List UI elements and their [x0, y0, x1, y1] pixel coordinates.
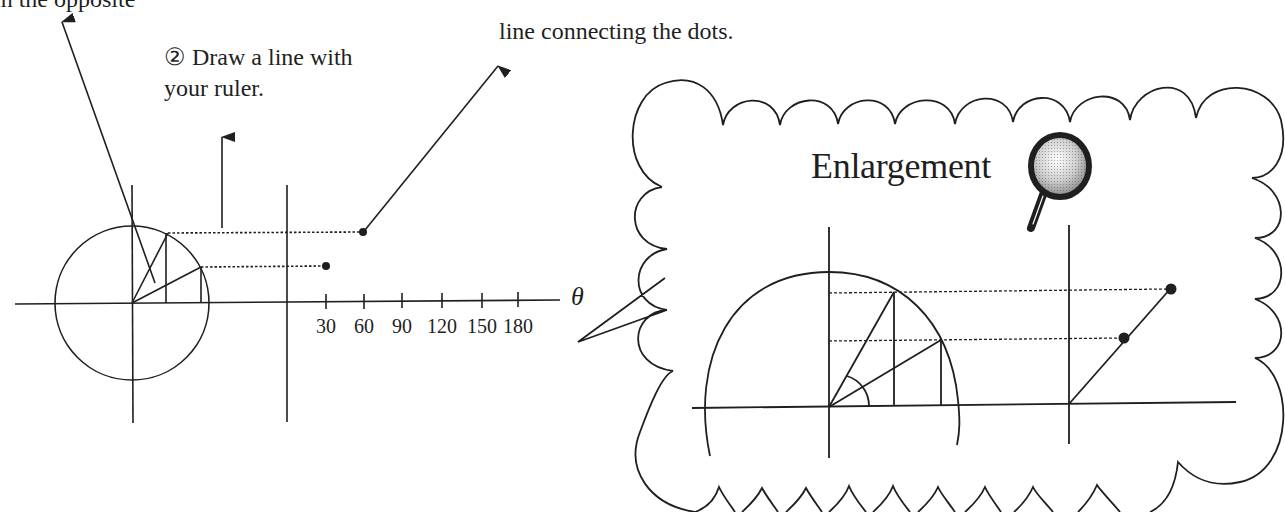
angle-arc: [847, 376, 869, 406]
instruction-step2-line1: ② Draw a line with: [164, 42, 424, 73]
arrow-step1: [62, 22, 155, 283]
plotted-point-60: [359, 228, 367, 236]
enlarged-radius-60: [829, 292, 894, 407]
instruction-step3-text: line connecting the dots.: [499, 18, 734, 45]
instruction-step2: ② Draw a line with your ruler.: [164, 42, 424, 104]
tick-label-120: 120: [427, 315, 457, 338]
projection-60: [168, 232, 362, 233]
instruction-step2-line2: your ruler.: [164, 73, 424, 104]
tick-label-90: 90: [392, 315, 412, 338]
plotted-point-30: [322, 262, 330, 270]
tick-label-60: 60: [354, 315, 374, 338]
theta-axis-label: θ: [571, 282, 584, 312]
sine-graph-segment: [1069, 288, 1171, 404]
projection-30: [201, 266, 325, 267]
tick-label-150: 150: [467, 315, 497, 338]
enlarged-point-30: [1119, 333, 1130, 344]
enlarged-projection-30: [829, 338, 1122, 341]
enlarged-circle-arc: [705, 272, 959, 456]
enlarged-projection-60: [829, 289, 1168, 293]
enlargement-title: Enlargement: [811, 145, 991, 187]
tick-label-30: 30: [316, 315, 336, 338]
enlarged-theta-axis: [692, 402, 1236, 408]
magnifying-glass-icon: [1031, 135, 1089, 228]
enlargement-diagram: [692, 225, 1236, 458]
enlarged-point-60: [1166, 284, 1177, 295]
enlarged-radius-30: [829, 340, 941, 407]
instruction-step1-text: in the opposite: [0, 0, 135, 13]
tick-label-180: 180: [503, 315, 533, 338]
